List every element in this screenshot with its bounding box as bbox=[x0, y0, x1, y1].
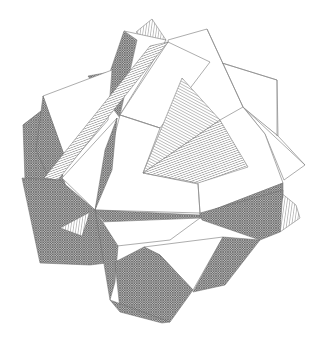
polyhedron-figure: Compound polyhedron line drawing bbox=[0, 0, 322, 342]
polyhedron-drawing bbox=[0, 0, 322, 342]
mid-faces bbox=[36, 29, 283, 215]
